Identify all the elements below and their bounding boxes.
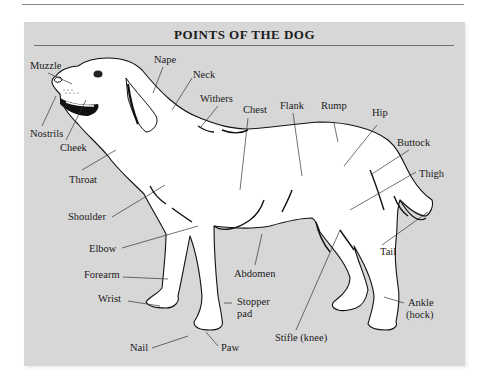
label-stifle: Stifle (knee)	[275, 332, 327, 343]
label-withers: Withers	[200, 93, 233, 104]
label-abdomen: Abdomen	[234, 268, 275, 279]
label-flank: Flank	[280, 100, 304, 111]
label-hip: Hip	[372, 107, 388, 118]
label-chest: Chest	[243, 104, 267, 115]
eye-icon	[94, 71, 103, 78]
dog-body-icon	[52, 58, 433, 330]
label-muzzle: Muzzle	[30, 60, 62, 71]
label-neck: Neck	[193, 69, 215, 80]
label-stopper-pad-line2: pad	[237, 308, 252, 319]
label-cheek: Cheek	[60, 142, 87, 153]
label-stopper-pad-line1: Stopper	[237, 296, 270, 307]
label-rump: Rump	[321, 100, 347, 111]
label-nail: Nail	[130, 342, 148, 353]
dog-illustration	[0, 0, 486, 379]
label-shoulder: Shoulder	[68, 211, 106, 222]
label-buttock: Buttock	[397, 137, 430, 148]
label-nape: Nape	[154, 54, 176, 65]
label-ankle-line1: Ankle	[408, 297, 434, 308]
label-ankle-line2: (hock)	[406, 309, 433, 320]
label-forearm: Forearm	[84, 269, 120, 280]
label-nostrils: Nostrils	[30, 128, 63, 139]
label-elbow: Elbow	[89, 243, 116, 254]
label-wrist: Wrist	[98, 293, 121, 304]
label-throat: Throat	[69, 174, 97, 185]
label-thigh: Thigh	[419, 168, 444, 179]
label-tail: Tail	[380, 246, 396, 257]
label-paw: Paw	[221, 342, 239, 353]
